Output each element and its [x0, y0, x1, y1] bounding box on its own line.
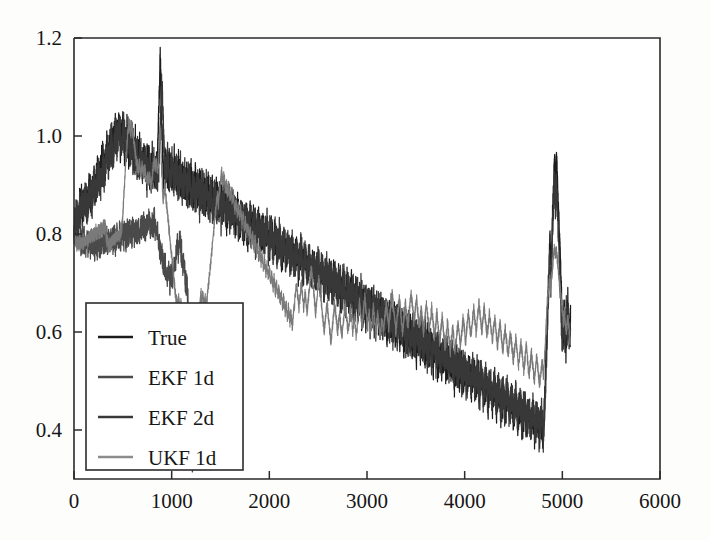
chart-legend[interactable]: TrueEKF 1dEKF 2dUKF 1d [86, 303, 243, 470]
x-tick-label: 3000 [346, 489, 388, 513]
y-tick-label: 0.4 [36, 418, 63, 442]
y-tick-label: 0.6 [36, 320, 62, 344]
legend-label-true[interactable]: True [148, 326, 187, 350]
x-tick-label: 1000 [151, 489, 193, 513]
x-tick-label: 6000 [639, 489, 681, 513]
chart-page: 0100020003000400050006000 0.40.60.81.01.… [0, 0, 710, 540]
legend-label-ukf-1d[interactable]: UKF 1d [148, 446, 217, 470]
x-tick-label: 5000 [541, 489, 583, 513]
y-tick-label: 0.8 [36, 222, 62, 246]
legend-label-ekf-2d[interactable]: EKF 2d [148, 406, 214, 430]
x-tick-label: 4000 [444, 489, 486, 513]
y-tick-label: 1.2 [36, 26, 62, 50]
y-tick-label: 1.0 [36, 124, 62, 148]
x-tick-label: 2000 [248, 489, 290, 513]
legend-label-ekf-1d[interactable]: EKF 1d [148, 366, 214, 390]
line-chart: 0100020003000400050006000 0.40.60.81.01.… [0, 0, 710, 540]
x-tick-label: 0 [69, 489, 80, 513]
